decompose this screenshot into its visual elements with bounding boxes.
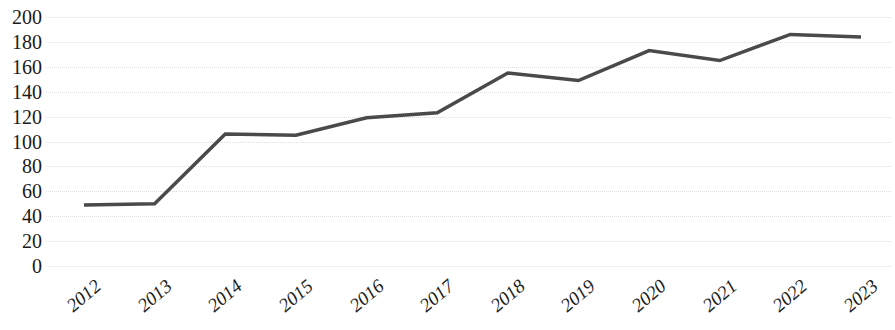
y-tick-label: 0 (0, 256, 42, 276)
y-tick-label: 20 (0, 231, 42, 251)
y-tick-label: 200 (0, 7, 42, 27)
y-tick-label: 120 (0, 107, 42, 127)
x-tick-label: 2021 (688, 276, 740, 324)
x-tick-label: 2014 (193, 276, 245, 324)
x-tick-label: 2018 (476, 276, 528, 324)
y-tick-label: 60 (0, 181, 42, 201)
x-tick-label: 2020 (617, 276, 669, 324)
x-tick-label: 2015 (264, 276, 316, 324)
x-tick-label: 2022 (759, 276, 811, 324)
x-tick-label: 2012 (52, 276, 104, 324)
y-tick-label: 80 (0, 156, 42, 176)
x-tick-label: 2019 (547, 276, 599, 324)
y-tick-label: 140 (0, 82, 42, 102)
plot-area (46, 17, 891, 266)
x-tick-label: 2023 (829, 276, 881, 324)
line-chart: 020406080100120140160180200 201220132014… (0, 0, 895, 330)
gridline (46, 266, 891, 267)
y-tick-label: 40 (0, 206, 42, 226)
series-line (84, 34, 861, 205)
x-tick-label: 2016 (335, 276, 387, 324)
y-tick-label: 160 (0, 57, 42, 77)
y-axis: 020406080100120140160180200 (0, 0, 42, 290)
y-tick-label: 100 (0, 132, 42, 152)
x-tick-label: 2017 (405, 276, 457, 324)
x-axis: 2012201320142015201620172018201920202021… (46, 268, 891, 330)
series-layer (46, 17, 891, 266)
x-tick-label: 2013 (123, 276, 175, 324)
y-tick-label: 180 (0, 32, 42, 52)
